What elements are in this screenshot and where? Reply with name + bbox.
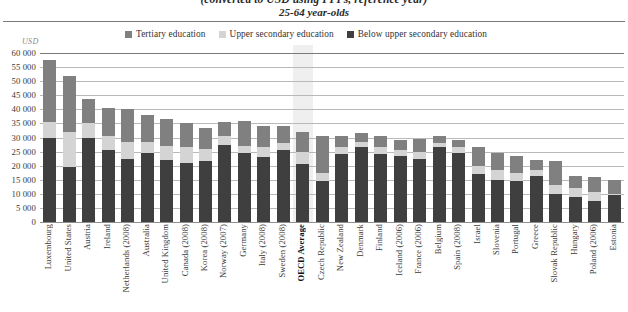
bar-segment-tertiary	[510, 156, 523, 173]
gridline	[40, 81, 624, 82]
bar-segment-below	[569, 197, 582, 222]
bar-column	[218, 122, 231, 222]
bar-column	[316, 136, 329, 222]
x-axis-label: Australia	[141, 224, 154, 256]
bar-segment-tertiary	[43, 60, 56, 122]
bar-column	[472, 147, 485, 222]
gridline	[40, 95, 624, 96]
bar-segment-below	[121, 159, 134, 222]
bar-column	[355, 133, 368, 222]
y-axis-tick-label: 55 000	[0, 62, 36, 72]
bar-segment-below	[102, 150, 115, 222]
gridline	[40, 67, 624, 68]
bar-segment-below	[510, 181, 523, 222]
bar-segment-upper	[102, 136, 115, 150]
bar-segment-upper	[452, 147, 465, 153]
bar-segment-tertiary	[121, 109, 134, 141]
bar-column	[510, 156, 523, 222]
bar-segment-tertiary	[413, 139, 426, 152]
x-axis-label: Denmark	[355, 224, 368, 257]
bar-segment-upper	[160, 146, 173, 160]
legend-label: Tertiary education	[136, 29, 206, 39]
bar-segment-upper	[180, 147, 193, 162]
legend-item-tertiary: Tertiary education	[125, 29, 206, 39]
x-axis-label: Poland (2006)	[588, 224, 601, 274]
bar-segment-below	[588, 201, 601, 222]
y-axis-tick-label: 60 000	[0, 48, 36, 58]
y-axis-tick-label: 30 000	[0, 133, 36, 143]
bar-segment-upper	[530, 170, 543, 176]
bar-segment-tertiary	[491, 153, 504, 170]
bar-segment-upper	[82, 123, 95, 137]
chart-title-block: (converted to USD using PPPs, reference …	[0, 0, 628, 18]
x-axis-label: Portugal	[510, 224, 523, 254]
bar-segment-tertiary	[588, 177, 601, 192]
y-axis-tick-label: 20 000	[0, 161, 36, 171]
y-axis-tick-label: 50 000	[0, 76, 36, 86]
legend-label: Below upper secondary education	[358, 29, 487, 39]
bar-segment-tertiary	[530, 160, 543, 170]
x-axis-label: Slovak Republic	[549, 224, 562, 283]
x-axis-label: Hungary	[569, 224, 582, 255]
bar-segment-tertiary	[472, 147, 485, 165]
legend-swatch-icon	[347, 31, 354, 38]
bar-segment-tertiary	[569, 176, 582, 189]
bar-segment-upper	[355, 142, 368, 148]
bar-segment-below	[530, 176, 543, 222]
bar-segment-tertiary	[257, 126, 270, 147]
bar-segment-upper	[608, 194, 621, 195]
x-axis-label: Sweden (2008)	[277, 224, 290, 278]
bar-segment-upper	[433, 143, 446, 147]
bar-column	[549, 161, 562, 222]
bar-segment-tertiary	[355, 133, 368, 141]
x-axis-label: Finland	[374, 224, 387, 251]
bar-column	[394, 140, 407, 222]
bar-column	[141, 115, 154, 222]
bar-segment-upper	[277, 143, 290, 150]
bar-segment-upper	[296, 152, 309, 165]
legend-item-upper_secondary: Upper secondary education	[219, 29, 334, 39]
gridline	[40, 222, 624, 223]
x-axis-label: Korea (2008)	[199, 224, 212, 271]
bar-segment-below	[472, 174, 485, 222]
y-axis-tick-label: 35 000	[0, 118, 36, 128]
bar-segment-tertiary	[608, 180, 621, 194]
bar-segment-below	[335, 154, 348, 222]
bar-segment-below	[141, 153, 154, 222]
bar-segment-upper	[491, 170, 504, 180]
bar-segment-below	[218, 145, 231, 222]
x-axis-label: Germany	[238, 224, 251, 257]
x-axis-label: Greece	[530, 224, 543, 249]
bar-column	[452, 140, 465, 222]
bar-segment-below	[180, 163, 193, 222]
x-axis-label: Ireland	[102, 224, 115, 249]
bar-column	[43, 60, 56, 222]
bar-segment-below	[608, 195, 621, 222]
bar-segment-below	[433, 147, 446, 222]
bar-segment-below	[160, 160, 173, 222]
bar-segment-upper	[472, 166, 485, 174]
bar-segment-below	[491, 180, 504, 222]
bar-segment-upper	[394, 150, 407, 156]
x-axis-label: Spain (2008)	[452, 224, 465, 270]
legend-item-below_upper_secondary: Below upper secondary education	[347, 29, 487, 39]
bar-segment-below	[277, 150, 290, 222]
bar-segment-tertiary	[199, 128, 212, 149]
bar-column	[335, 136, 348, 222]
y-axis-tick-label: 0	[0, 217, 36, 227]
y-axis-tick-label: 25 000	[0, 147, 36, 157]
legend-swatch-icon	[125, 31, 132, 38]
bar-segment-upper	[413, 152, 426, 159]
bar-segment-upper	[199, 149, 212, 162]
bar-column	[102, 108, 115, 222]
bar-segment-upper	[43, 122, 56, 137]
bar-segment-tertiary	[141, 115, 154, 142]
x-axis-label: Austria	[82, 224, 95, 250]
bar-column	[199, 128, 212, 222]
title-divider	[3, 21, 625, 22]
bar-segment-tertiary	[335, 136, 348, 147]
bar-segment-upper	[257, 147, 270, 157]
x-axis-label: New Zealand	[335, 224, 348, 271]
x-axis-label: Netherlands (2008)	[121, 224, 134, 292]
bar-segment-tertiary	[218, 122, 231, 136]
